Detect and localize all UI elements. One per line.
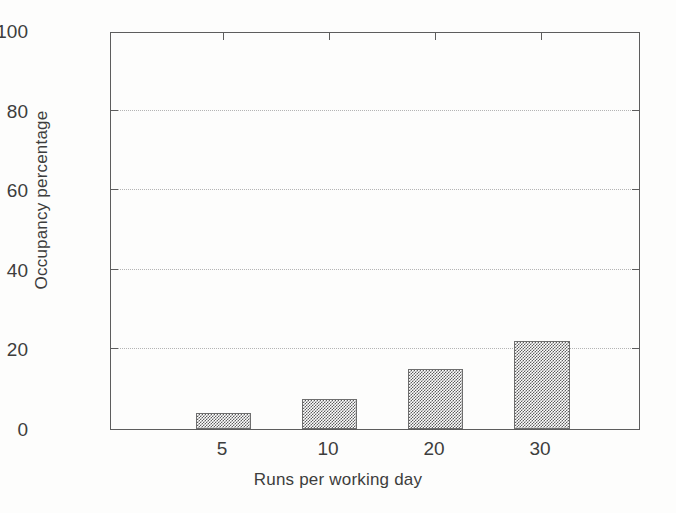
y-tick-mark-60 (111, 189, 118, 190)
gridline-40 (111, 269, 639, 270)
y-tick-mark-right-80 (632, 110, 639, 111)
x-tick-mark-top-5 (223, 33, 224, 40)
x-tick-label-30: 30 (500, 438, 580, 460)
bar-10[interactable] (302, 399, 357, 429)
x-axis-title: Runs per working day (0, 470, 676, 490)
y-tick-label-20: 20 (0, 339, 28, 361)
x-tick-label-10: 10 (288, 438, 368, 460)
bar-20[interactable] (408, 369, 463, 429)
y-tick-label-60: 60 (0, 180, 28, 202)
y-tick-mark-right-20 (632, 348, 639, 349)
x-tick-mark-top-20 (435, 33, 436, 40)
y-tick-mark-20 (111, 348, 118, 349)
plot-area (110, 32, 640, 430)
x-tick-label-5: 5 (182, 438, 262, 460)
y-tick-label-40: 40 (0, 260, 28, 282)
y-tick-mark-80 (111, 110, 118, 111)
y-tick-label-80: 80 (0, 101, 28, 123)
gridline-60 (111, 189, 639, 190)
gridline-80 (111, 110, 639, 111)
y-tick-mark-right-60 (632, 189, 639, 190)
bar-5[interactable] (196, 413, 251, 429)
y-tick-mark-40 (111, 269, 118, 270)
y-tick-mark-right-40 (632, 269, 639, 270)
bar-30[interactable] (514, 341, 570, 429)
x-tick-mark-top-30 (541, 33, 542, 40)
bar-chart-figure: Occupancy percentage 0 20 40 60 80 100 (0, 0, 676, 513)
y-tick-label-100: 100 (0, 21, 28, 43)
x-tick-label-20: 20 (394, 438, 474, 460)
y-axis-title: Occupancy percentage (32, 40, 52, 360)
x-tick-mark-top-10 (329, 33, 330, 40)
y-tick-label-0: 0 (0, 419, 28, 441)
